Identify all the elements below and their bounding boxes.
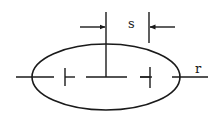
label-s: s	[128, 16, 135, 31]
left-tick-mark	[65, 68, 75, 86]
dimension-diagram: s r	[0, 0, 220, 119]
right-tick-mark	[140, 67, 150, 88]
label-r: r	[195, 61, 202, 76]
